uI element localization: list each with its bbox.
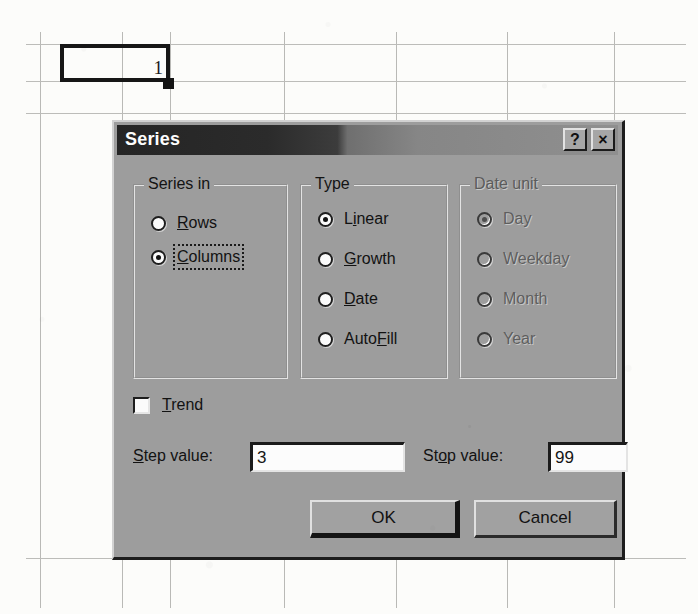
radio-label-columns: Columns (177, 248, 240, 266)
radio-circle (477, 332, 492, 347)
radio-label-linear: Linear (344, 210, 389, 228)
fill-handle[interactable] (163, 78, 174, 89)
radio-circle[interactable] (318, 292, 333, 307)
group-date-unit: Date unit Day Weekday Month Year (459, 184, 617, 379)
radio-day: Day (477, 208, 531, 230)
checkbox-box[interactable] (133, 397, 150, 414)
radio-label-growth: Growth (344, 250, 396, 268)
radio-month: Month (477, 288, 547, 310)
radio-label-year: Year (503, 330, 535, 348)
radio-year: Year (477, 328, 535, 350)
radio-circle[interactable] (151, 250, 166, 265)
radio-label-day: Day (503, 210, 531, 228)
group-label-series-in: Series in (144, 175, 214, 193)
checkbox-label-trend: Trend (162, 396, 203, 414)
radio-weekday: Weekday (477, 248, 569, 270)
radio-circle[interactable] (318, 252, 333, 267)
group-label-type: Type (311, 175, 354, 193)
label-step-value: Step value: (133, 447, 213, 465)
radio-circle[interactable] (318, 332, 333, 347)
radio-label-date: Date (344, 290, 378, 308)
value-row: Step value: 3 Stop value: 99 (133, 442, 608, 472)
cell-value: 1 (154, 58, 164, 77)
radio-rows[interactable]: Rows (151, 212, 217, 234)
series-dialog: Series ? × Series in Rows Columns Type L… (112, 120, 625, 560)
group-type: Type Linear Growth Date AutoFill (300, 184, 448, 379)
radio-columns[interactable]: Columns (151, 246, 240, 268)
cancel-button[interactable]: Cancel (474, 500, 617, 538)
radio-circle[interactable] (151, 216, 166, 231)
checkbox-trend[interactable]: Trend (133, 394, 203, 416)
radio-circle (477, 212, 492, 227)
label-stop-value: Stop value: (423, 447, 503, 465)
dialog-title: Series (125, 129, 180, 150)
close-icon[interactable]: × (591, 128, 615, 151)
radio-circle[interactable] (318, 212, 333, 227)
radio-circle (477, 252, 492, 267)
ok-button[interactable]: OK (310, 500, 460, 538)
radio-label-rows: Rows (177, 214, 217, 232)
selected-cell[interactable]: 1 (60, 44, 170, 82)
radio-label-month: Month (503, 290, 547, 308)
stop-value-input[interactable]: 99 (548, 442, 628, 472)
dialog-titlebar[interactable]: Series ? × (117, 125, 618, 155)
radio-date[interactable]: Date (318, 288, 378, 310)
radio-circle (477, 292, 492, 307)
group-label-date-unit: Date unit (470, 175, 542, 193)
help-icon[interactable]: ? (563, 128, 587, 151)
radio-linear[interactable]: Linear (318, 208, 389, 230)
radio-label-weekday: Weekday (503, 250, 569, 268)
radio-autofill[interactable]: AutoFill (318, 328, 397, 350)
radio-label-autofill: AutoFill (344, 330, 397, 348)
group-series-in: Series in Rows Columns (133, 184, 288, 379)
step-value-input[interactable]: 3 (250, 442, 405, 472)
grid-hline (26, 113, 686, 114)
radio-growth[interactable]: Growth (318, 248, 396, 270)
grid-vline (40, 32, 41, 608)
